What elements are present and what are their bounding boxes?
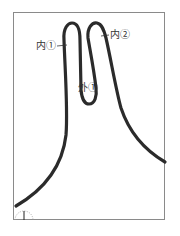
label-inner-1: 内① [36,41,56,51]
label-outer-1: 外① [78,83,98,93]
curve-diagram [0,0,180,236]
label-inner-2: 内② [110,30,130,40]
inner2-leader-line [101,35,109,36]
